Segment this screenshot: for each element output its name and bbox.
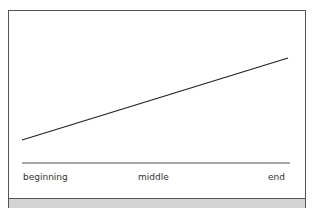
trend-line <box>22 58 288 140</box>
footer-band <box>9 198 305 208</box>
x-tick-end: end <box>268 172 285 182</box>
x-tick-beginning: beginning <box>23 172 68 182</box>
x-tick-middle: middle <box>138 172 169 182</box>
